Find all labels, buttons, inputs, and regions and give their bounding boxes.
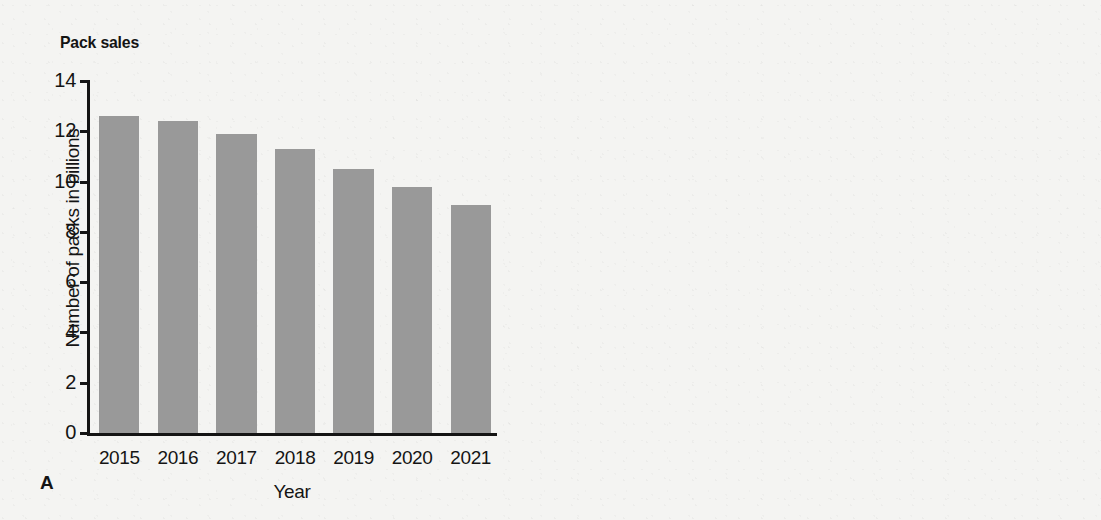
panel-letter-a: A <box>40 472 54 494</box>
panel-a-title: Pack sales <box>60 33 139 53</box>
x-axis-title-a: Year <box>87 481 497 503</box>
panel-b-total-sales: Total sales 01020304050607080 2015201620… <box>551 0 1101 520</box>
bar-a-2016 <box>158 121 198 433</box>
panel-a-pack-sales: Pack sales 02468101214 20152016201720182… <box>0 0 550 520</box>
bar-a-2020 <box>392 187 432 433</box>
y-tick-mark <box>80 432 90 435</box>
x-tick-label-2021: 2021 <box>441 447 500 469</box>
x-tick-label-2019: 2019 <box>324 447 383 469</box>
bar-a-2015 <box>99 116 139 433</box>
bar-a-2021 <box>451 205 491 433</box>
x-tick-label-2017: 2017 <box>207 447 266 469</box>
bar-a-2017 <box>216 134 256 433</box>
x-axis-line-a <box>87 433 497 436</box>
bar-a-2018 <box>275 149 315 433</box>
figure-canvas: Pack sales 02468101214 20152016201720182… <box>0 0 1101 520</box>
x-tick-label-2018: 2018 <box>266 447 325 469</box>
bar-a-2019 <box>333 169 373 433</box>
y-tick-label: 0 <box>65 421 76 444</box>
x-tick-label-2015: 2015 <box>90 447 149 469</box>
x-tick-label-2020: 2020 <box>383 447 442 469</box>
y-axis-title-a: Number of packs in billions <box>62 62 84 414</box>
panel-a-plot-area: 02468101214 2015201620172018201920202021… <box>87 81 497 433</box>
x-tick-label-2016: 2016 <box>149 447 208 469</box>
